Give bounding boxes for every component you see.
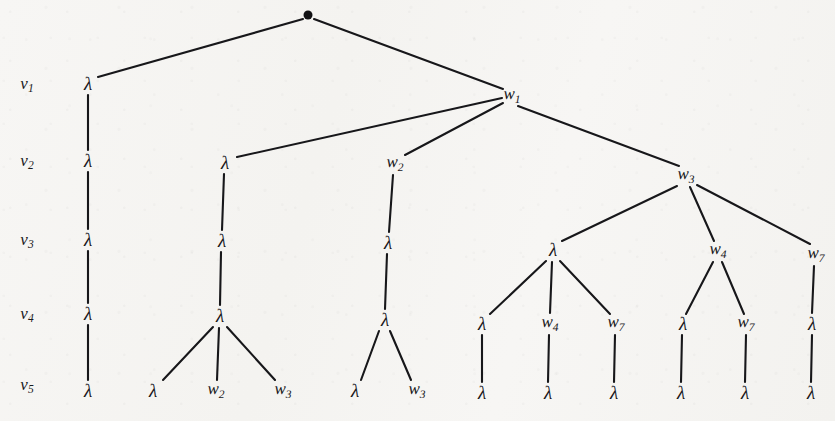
row-label-subscript: 1 — [28, 82, 34, 94]
tree-edge — [686, 262, 713, 314]
tree-edge — [98, 19, 303, 77]
row-v5: v5 — [20, 375, 33, 396]
tree-edge — [390, 331, 411, 380]
root-node-dot — [304, 11, 313, 20]
n-v4-w7: w7 — [607, 313, 624, 334]
n-v5-lambda-i: λ — [807, 384, 815, 403]
row-v1: v1 — [20, 74, 33, 95]
n-v5-lambda-d: λ — [478, 384, 486, 403]
n-v3-w7: w7 — [807, 244, 824, 265]
tree-edge — [217, 328, 219, 380]
n-v5-lambda-a: λ — [84, 382, 92, 401]
n-v2-w3: w3 — [677, 165, 694, 186]
tree-edge — [614, 335, 615, 382]
tree-edge — [405, 103, 503, 155]
n-v5-lambda-g: λ — [677, 384, 685, 403]
n-v5-w3: w3 — [274, 380, 291, 401]
tree-edge — [681, 335, 682, 382]
tree-edge — [548, 335, 549, 382]
n-v3-lambda-a: λ — [84, 231, 92, 250]
row-label-subscript: 5 — [28, 383, 34, 395]
n-v4-lambda-b: λ — [216, 307, 224, 326]
n-v3-lambda-b: λ — [218, 232, 226, 251]
n-v4-w4: w4 — [541, 313, 558, 334]
node-subscript: 7 — [619, 322, 625, 334]
tree-diagram-figure: v1v2v3v4v5 λw1λλw2w3λλλλw4w7λλλλw4w7λw7λ… — [0, 0, 835, 421]
n-v4-lambda-a: λ — [84, 305, 92, 324]
node-subscript: 1 — [515, 94, 521, 106]
n-v5-lambda-b: λ — [149, 382, 157, 401]
tree-edge — [237, 98, 502, 157]
tree-edge — [518, 106, 679, 166]
n-v5-lambda-e: λ — [544, 384, 552, 403]
row-label-subscript: 3 — [28, 238, 34, 250]
tree-edge — [690, 187, 714, 241]
tree-edge — [722, 262, 744, 314]
tree-edge — [222, 174, 224, 230]
n-v5-w2: w2 — [207, 380, 224, 401]
row-v3: v3 — [20, 230, 33, 251]
tree-edge — [812, 266, 814, 313]
tree-edge — [811, 335, 812, 382]
n-v5-lambda-f: λ — [610, 384, 618, 403]
n-v2-w2: w2 — [386, 153, 403, 174]
n-v1-w1: w1 — [503, 85, 520, 106]
n-v2-lambda-a: λ — [84, 152, 92, 171]
n-v4-lambda-e: λ — [679, 315, 687, 334]
tree-edge — [560, 261, 610, 314]
row-label-subscript: 2 — [28, 159, 34, 171]
node-subscript: 4 — [721, 249, 727, 261]
tree-edge — [697, 185, 810, 244]
n-v1-lambda: λ — [84, 75, 92, 94]
tree-edge — [550, 262, 552, 313]
n-v4-lambda-d: λ — [478, 315, 486, 334]
tree-edge — [385, 254, 387, 309]
node-subscript: 7 — [749, 322, 755, 334]
tree-edge — [227, 327, 275, 380]
node-subscript: 2 — [398, 162, 404, 174]
tree-edges — [0, 0, 835, 421]
tree-edge — [490, 261, 546, 314]
node-subscript: 3 — [420, 389, 426, 401]
n-v4-w7-b: w7 — [737, 313, 754, 334]
n-v4-lambda-f: λ — [808, 315, 816, 334]
n-v3-lambda-d: λ — [549, 241, 557, 260]
tree-edge — [361, 331, 379, 380]
tree-edge — [389, 175, 393, 232]
node-subscript: 7 — [819, 253, 825, 265]
n-v3-w4: w4 — [709, 240, 726, 261]
n-v2-lambda-b: λ — [221, 154, 229, 173]
node-subscript: 4 — [553, 322, 559, 334]
n-v5-w3-b: w3 — [408, 380, 425, 401]
node-subscript: 3 — [689, 174, 695, 186]
node-subscript: 2 — [219, 389, 225, 401]
tree-edge — [314, 19, 503, 89]
tree-edge — [745, 335, 746, 382]
row-v2: v2 — [20, 151, 33, 172]
tree-edge — [220, 252, 221, 305]
n-v3-lambda-c: λ — [384, 234, 392, 253]
row-label-subscript: 4 — [28, 312, 34, 324]
node-subscript: 3 — [286, 389, 292, 401]
n-v5-lambda-h: λ — [741, 384, 749, 403]
tree-edge — [562, 186, 677, 241]
tree-edge — [163, 327, 213, 380]
n-v5-lambda-c: λ — [351, 382, 359, 401]
row-v4: v4 — [20, 304, 33, 325]
n-v4-lambda-c: λ — [381, 311, 389, 330]
